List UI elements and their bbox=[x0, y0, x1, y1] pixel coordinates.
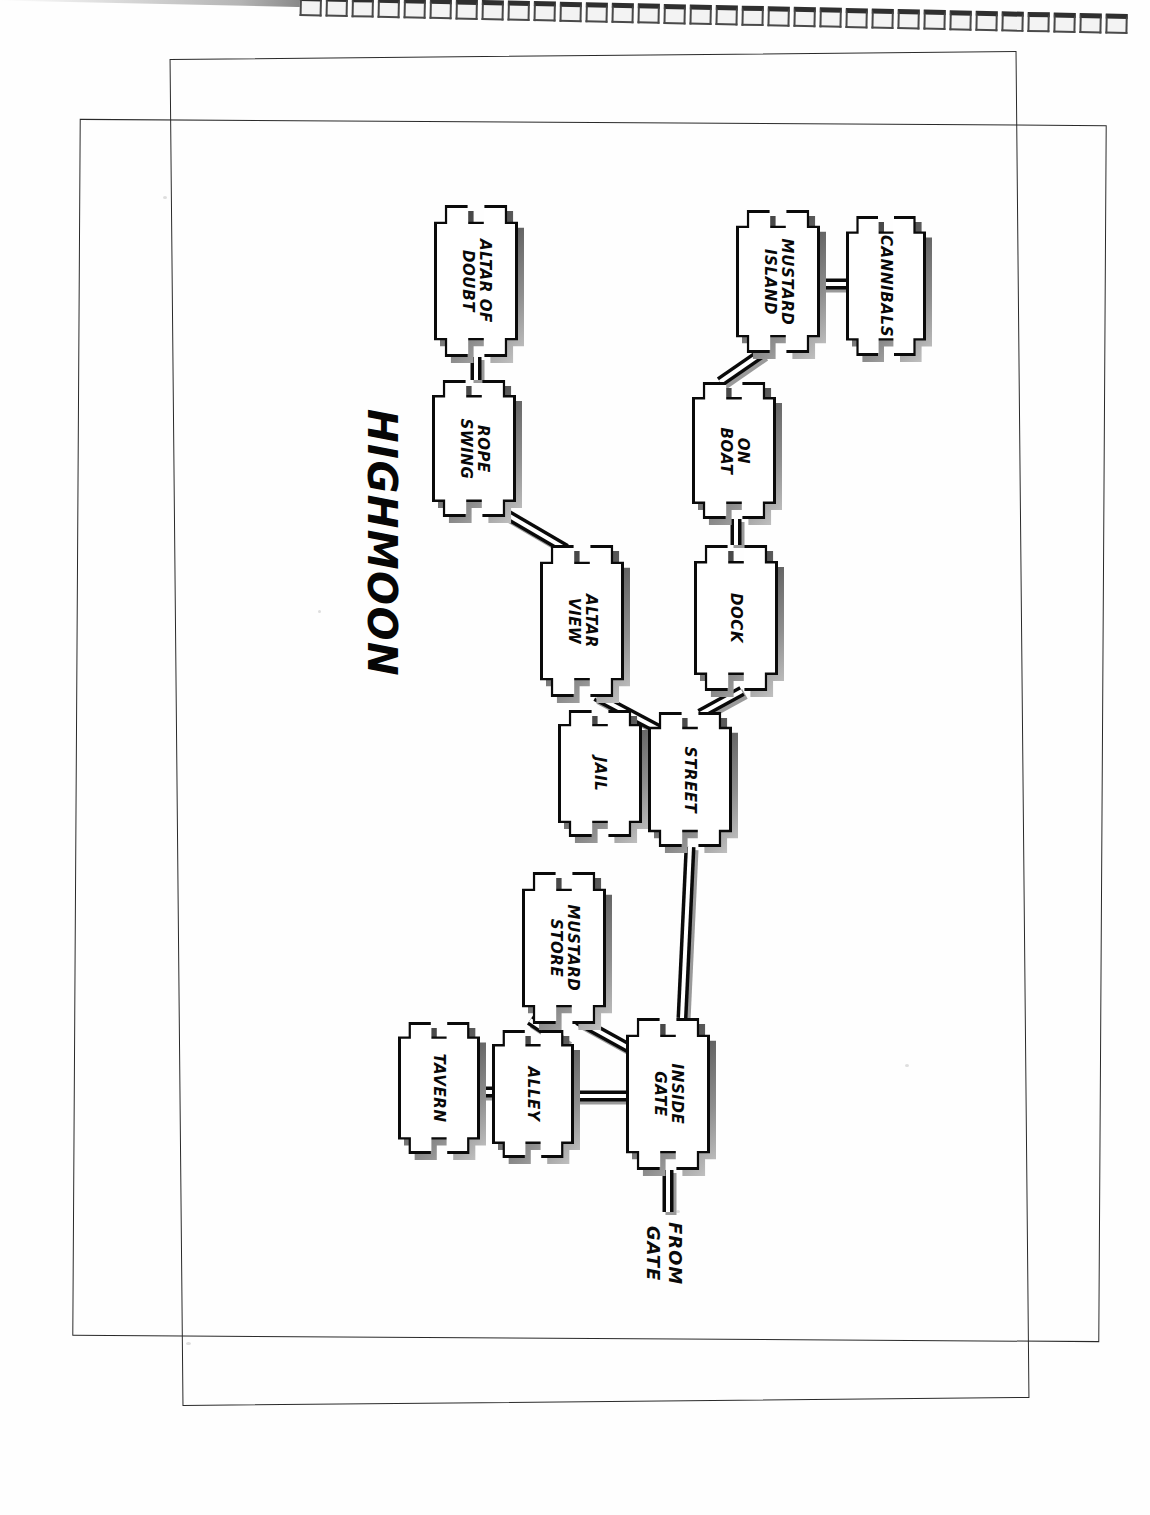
from-gate-label-line2: GATE bbox=[642, 1194, 664, 1314]
from-gate-label-line1: FROM bbox=[664, 1194, 686, 1314]
node-face bbox=[849, 219, 923, 353]
map-node-jail[interactable]: JAIL bbox=[558, 710, 642, 837]
edge-alley-inside-gate bbox=[574, 1096, 629, 1099]
map-node-mustard-store[interactable]: MUSTARDSTORE bbox=[522, 872, 606, 1024]
node-face bbox=[651, 715, 729, 844]
from-gate-label: FROM GATE bbox=[642, 1194, 685, 1314]
map-node-altar-of-doubt[interactable]: ALTAR OFDOUBT bbox=[434, 205, 518, 357]
node-face bbox=[695, 385, 773, 516]
map-node-street[interactable]: STREET bbox=[648, 712, 732, 847]
map-node-on-boat[interactable]: ONBOAT bbox=[692, 382, 776, 519]
map-node-cannibals[interactable]: CANNIBALS bbox=[846, 216, 926, 356]
node-face bbox=[401, 1025, 477, 1151]
map-node-tavern[interactable]: TAVERN bbox=[398, 1022, 480, 1154]
node-face bbox=[543, 548, 621, 694]
map-node-altar-view[interactable]: ALTARVIEW bbox=[540, 545, 624, 697]
scanned-page: HIGHMOON ALTAR OFDOUBTROPESWINGALTARVIEW… bbox=[0, 0, 1150, 1515]
node-face bbox=[739, 213, 817, 350]
node-face bbox=[435, 383, 513, 514]
node-face bbox=[697, 548, 775, 688]
map-node-dock[interactable]: DOCK bbox=[694, 545, 778, 691]
map-node-alley[interactable]: ALLEY bbox=[492, 1030, 574, 1158]
map-node-rope-swing[interactable]: ROPESWING bbox=[432, 380, 516, 517]
node-face bbox=[629, 1021, 707, 1167]
node-face bbox=[525, 875, 603, 1021]
edge-street-inside-gate bbox=[682, 847, 693, 1021]
map-node-mustard-island[interactable]: MUSTARDISLAND bbox=[736, 210, 820, 353]
map-node-inside-gate[interactable]: INSIDEGATE bbox=[626, 1018, 710, 1170]
node-face bbox=[437, 208, 515, 354]
node-face bbox=[561, 713, 639, 834]
edge-dock-on-boat bbox=[736, 519, 739, 548]
node-face bbox=[495, 1033, 571, 1155]
map-title: HIGHMOON bbox=[359, 393, 405, 693]
